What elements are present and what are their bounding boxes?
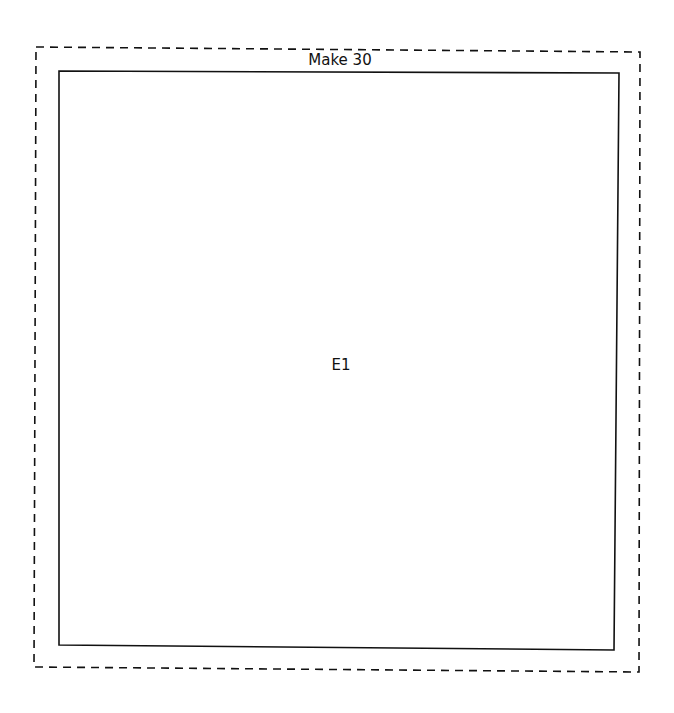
diagram-canvas: Make 30 E1 bbox=[0, 0, 674, 713]
inner-box-label: E1 bbox=[331, 356, 350, 374]
outer-box-label: Make 30 bbox=[308, 51, 371, 69]
